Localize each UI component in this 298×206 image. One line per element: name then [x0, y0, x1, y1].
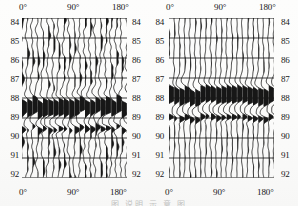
y-tick-label-right-86: 86 — [132, 56, 146, 65]
y-tick-label-right-86: 86 — [281, 56, 295, 65]
figure-root: 0° 90° 180° 0° 90° 180° 84 85 86 87 88 8… — [0, 0, 298, 206]
y-tick-label-left-91: 91 — [5, 151, 19, 160]
x-tick-label-bottom-0: 0° — [19, 188, 27, 197]
y-tick-label-right-85: 85 — [281, 37, 295, 46]
trace-fill — [237, 33, 242, 151]
y-tick-label-right-92: 92 — [281, 170, 295, 179]
y-tick-label-right-90: 90 — [132, 132, 146, 141]
x-tick-label-top-0: 0° — [166, 3, 174, 12]
trace-fill — [201, 18, 206, 178]
y-tick-label-right-84: 84 — [281, 18, 295, 27]
y-tick-label-left-89: 89 — [5, 113, 19, 122]
y-tick-label-left-87: 87 — [152, 75, 164, 84]
y-tick-label-left-86: 86 — [5, 56, 19, 65]
trace-fill — [211, 18, 216, 176]
wiggle-svg — [169, 18, 274, 178]
y-tick-label-left-85: 85 — [152, 37, 164, 46]
x-tick-label-bottom-180: 180° — [257, 188, 274, 197]
trace-group — [169, 18, 274, 178]
y-tick-label-right-87: 87 — [132, 75, 146, 84]
x-tick-label-bottom-0: 0° — [165, 188, 173, 197]
y-tick-label-right-89: 89 — [132, 113, 146, 122]
x-tick-label-bottom-180: 180° — [110, 188, 127, 197]
y-tick-label-left-91: 91 — [152, 151, 164, 160]
y-tick-label-right-91: 91 — [281, 151, 295, 160]
x-tick-label-bottom-90: 90° — [213, 188, 225, 197]
y-tick-label-left-85: 85 — [5, 37, 19, 46]
y-tick-label-left-89: 89 — [152, 113, 164, 122]
trace-fill — [253, 18, 258, 178]
x-tick-label-top-180: 180° — [112, 3, 129, 12]
x-tick-label-bottom-90: 90° — [67, 188, 79, 197]
y-tick-label-right-84: 84 — [132, 18, 146, 27]
y-tick-label-left-90: 90 — [5, 132, 19, 141]
y-tick-label-left-92: 92 — [5, 170, 19, 179]
y-tick-label-left-87: 87 — [5, 75, 19, 84]
y-tick-label-right-91: 91 — [132, 151, 146, 160]
trace-fill — [43, 32, 48, 179]
y-tick-label-left-88: 88 — [152, 94, 164, 103]
wiggle-plot-area-left — [22, 18, 127, 178]
trace-fill — [96, 46, 101, 171]
y-tick-label-right-89: 89 — [281, 113, 295, 122]
wiggle-plot-area-right — [169, 18, 274, 178]
y-tick-label-right-88: 88 — [281, 94, 295, 103]
x-tick-label-top-90: 90° — [214, 3, 226, 12]
y-tick-label-left-90: 90 — [152, 132, 164, 141]
x-tick-label-top-180: 180° — [259, 3, 276, 12]
x-tick-label-top-90: 90° — [67, 3, 79, 12]
partial-caption: 图 说明 示 意 图 — [0, 198, 298, 206]
y-tick-label-right-88: 88 — [132, 94, 146, 103]
y-tick-label-right-92: 92 — [132, 170, 146, 179]
trace-fill — [190, 23, 195, 178]
trace-fill — [38, 20, 43, 178]
y-tick-label-right-90: 90 — [281, 132, 295, 141]
y-tick-label-left-84: 84 — [5, 18, 19, 27]
y-tick-label-left-92: 92 — [152, 170, 164, 179]
y-tick-label-left-84: 84 — [152, 18, 164, 27]
y-tick-label-right-85: 85 — [132, 37, 146, 46]
x-tick-label-top-0: 0° — [19, 3, 27, 12]
record-section-panel-left: 0° 90° 180° 0° 90° 180° 84 85 86 87 88 8… — [0, 0, 149, 206]
record-section-panel-right: 0° 90° 180° 0° 90° 180° 84 85 86 87 88 8… — [149, 0, 298, 206]
wiggle-svg — [22, 18, 127, 178]
y-tick-label-left-86: 86 — [152, 56, 164, 65]
y-tick-label-left-88: 88 — [5, 94, 19, 103]
y-tick-label-right-87: 87 — [281, 75, 295, 84]
